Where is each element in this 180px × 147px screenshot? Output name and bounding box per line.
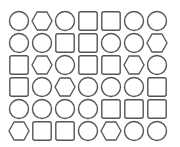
square-icon	[100, 54, 122, 76]
square-icon	[8, 54, 30, 76]
square-icon	[123, 98, 145, 120]
hexagon-icon	[146, 32, 168, 54]
circle-icon	[100, 32, 122, 54]
square-icon	[8, 76, 30, 98]
square-icon	[77, 32, 99, 54]
circle-icon	[8, 98, 30, 120]
square-icon	[54, 32, 76, 54]
hexagon-icon	[8, 120, 30, 142]
shape-row	[8, 32, 178, 54]
square-icon	[100, 98, 122, 120]
circle-icon	[77, 120, 99, 142]
circle-icon	[123, 120, 145, 142]
square-icon	[31, 120, 53, 142]
circle-icon	[123, 32, 145, 54]
circle-icon	[31, 98, 53, 120]
circle-icon	[54, 10, 76, 32]
circle-icon	[100, 76, 122, 98]
hexagon-icon	[31, 54, 53, 76]
hexagon-icon	[54, 76, 76, 98]
circle-icon	[146, 54, 168, 76]
square-icon	[100, 10, 122, 32]
circle-icon	[146, 120, 168, 142]
hexagon-icon	[100, 120, 122, 142]
circle-icon	[54, 54, 76, 76]
circle-icon	[31, 76, 53, 98]
circle-icon	[54, 98, 76, 120]
square-icon	[77, 54, 99, 76]
square-icon	[77, 10, 99, 32]
circle-icon	[31, 32, 53, 54]
circle-icon	[8, 10, 30, 32]
circle-icon	[77, 76, 99, 98]
shape-row	[8, 98, 178, 120]
circle-icon	[146, 10, 168, 32]
square-icon	[146, 76, 168, 98]
square-icon	[146, 98, 168, 120]
hexagon-icon	[123, 54, 145, 76]
circle-icon	[8, 32, 30, 54]
square-icon	[54, 120, 76, 142]
shape-row	[8, 120, 178, 142]
hexagon-icon	[31, 10, 53, 32]
shape-row	[8, 76, 178, 98]
shape-row	[8, 10, 178, 32]
circle-icon	[77, 98, 99, 120]
shape-row	[8, 54, 178, 76]
circle-icon	[123, 10, 145, 32]
circle-icon	[123, 76, 145, 98]
